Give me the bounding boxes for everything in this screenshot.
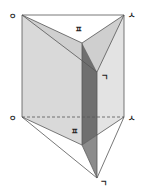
label-bottom-mid: ㅍ <box>71 127 78 136</box>
label-bottom-right: ㅅ <box>128 114 135 123</box>
label-mid-right: ㄱ <box>101 73 108 82</box>
label-bottom-point: ㄱ <box>100 179 107 188</box>
label-bottom-left: ㅇ <box>9 114 16 123</box>
label-top-right: ㅅ <box>128 11 135 20</box>
prism-diagram: ㅇ ㅅ ㅍ ㄱ ㅇ ㅅ ㅍ ㄱ <box>0 0 146 191</box>
label-top-mid: ㅍ <box>75 25 82 34</box>
label-top-left: ㅇ <box>9 12 16 21</box>
